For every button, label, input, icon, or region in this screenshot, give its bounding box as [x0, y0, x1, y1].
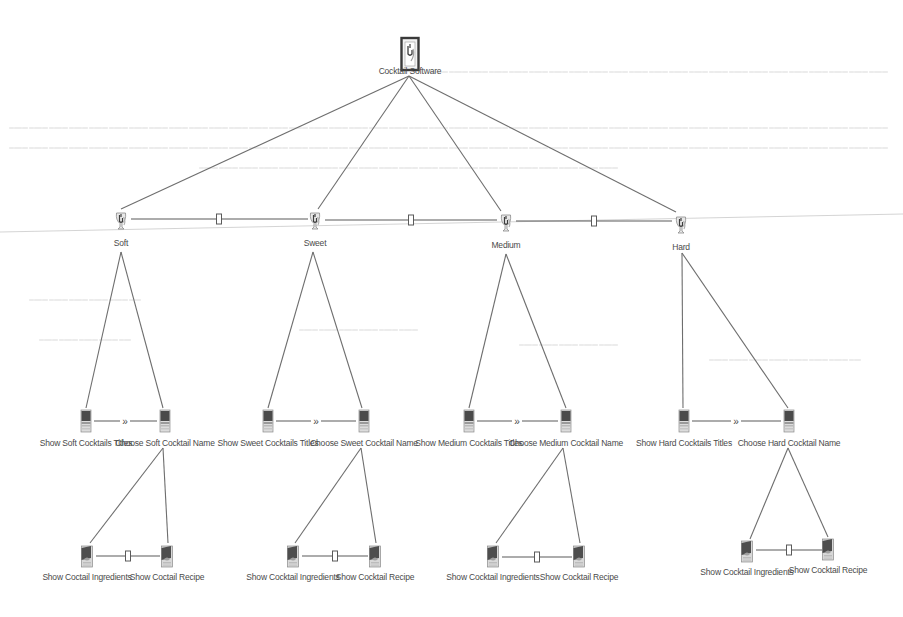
alternative-marker-icon	[592, 216, 597, 226]
recipe-card-icon	[370, 546, 381, 567]
tree-edge-hard-to-hard_name	[682, 253, 788, 408]
node-label: Show Cocktail Recipe	[540, 572, 619, 582]
screen-page-icon	[81, 410, 91, 432]
tree-edge-hard_name-to-hard_ingr	[750, 448, 788, 539]
recipe-card-icon	[742, 541, 753, 562]
tree-edge-root-to-medium	[409, 76, 501, 211]
node-label: Medium	[491, 240, 520, 250]
alternative-marker-icon	[409, 215, 414, 225]
recipe-card-icon	[82, 546, 93, 567]
screen-page-icon	[784, 410, 794, 432]
screen-page-icon	[263, 410, 273, 432]
tree-edge-sweet_name-to-sweet_recipe	[361, 448, 376, 543]
screen-page-icon	[561, 410, 571, 432]
node-label: Choose Soft Cocktail Name	[115, 438, 215, 448]
node-label: Choose Hard Cocktail Name	[738, 438, 841, 448]
tree-edge-soft_name-to-soft_recipe	[163, 448, 168, 543]
connector-sweet_ingr-sweet_recipe	[302, 551, 368, 561]
alternative-marker-icon	[217, 214, 222, 224]
alternative-marker-icon	[535, 552, 540, 562]
node-label: Show Cocktail Ingredients	[700, 567, 793, 577]
connector-hard_ingr-hard_recipe	[756, 545, 822, 555]
screen-page-icon	[160, 410, 170, 432]
node-sweet-ingr[interactable]: Show Cocktail Ingredients	[246, 546, 339, 582]
tree-edge-sweet_name-to-sweet_ingr	[295, 448, 361, 543]
screen-page-icon	[464, 410, 474, 432]
alternative-marker-icon	[787, 545, 792, 555]
tree-edge-hard-to-hard_titles	[682, 253, 683, 408]
node-medium-name[interactable]: Choose Medium Cocktail Name	[509, 410, 624, 448]
tree-edge-medium_name-to-medium_ingr	[496, 448, 563, 543]
tree-edge-soft_name-to-soft_ingr	[90, 448, 163, 543]
tree-edge-medium_name-to-medium_recipe	[563, 448, 580, 543]
node-hard[interactable]: Hard	[672, 217, 690, 252]
node-soft-ingr[interactable]: Show Coctail Ingredients	[42, 546, 131, 582]
recipe-card-icon	[288, 546, 299, 567]
sequence-chevron-icon: »	[313, 416, 319, 427]
node-label: Choose Sweet Cocktail Name	[310, 438, 418, 448]
tree-edge-medium-to-medium_name	[506, 254, 566, 408]
node-soft-name[interactable]: Choose Soft Cocktail Name	[115, 410, 215, 448]
screen-page-icon	[359, 410, 369, 432]
node-label: Show Cocktail Ingredients	[246, 572, 339, 582]
cocktail-glass-icon	[116, 213, 125, 229]
sequence-chevron-icon: »	[122, 416, 128, 427]
scan-background-noise	[0, 72, 903, 360]
sequence-chevron-icon: »	[733, 416, 739, 427]
connector-soft-sweet	[131, 214, 308, 224]
node-label: Sweet	[304, 238, 327, 248]
cocktail-glass-icon	[310, 213, 319, 229]
node-label: Hard	[672, 242, 690, 252]
node-soft-recipe[interactable]: Show Coctail Recipe	[130, 546, 205, 582]
node-label: Show Sweet Cocktails Titles	[218, 438, 319, 448]
node-sweet-titles[interactable]: Show Sweet Cocktails Titles	[218, 410, 319, 448]
sibling-connectors: »»»»	[94, 214, 822, 562]
node-label: Show Cocktail Ingredients	[446, 572, 539, 582]
node-hard-recipe[interactable]: Show Cocktail Recipe	[789, 539, 868, 575]
node-hard-titles[interactable]: Show Hard Cocktails Titles	[636, 410, 732, 448]
alternative-marker-icon	[333, 551, 338, 561]
node-label: Show Medium Cocktails Titles	[415, 438, 522, 448]
node-soft[interactable]: Soft	[114, 213, 129, 248]
sequence-chevron-icon: »	[514, 416, 520, 427]
node-label: Show Cocktail Recipe	[336, 572, 415, 582]
node-medium-titles[interactable]: Show Medium Cocktails Titles	[415, 410, 522, 448]
tree-edge-soft-to-soft_name	[121, 252, 163, 408]
tree-edge-root-to-soft	[121, 76, 409, 209]
recipe-card-icon	[488, 546, 499, 567]
connector-soft_ingr-soft_recipe	[96, 551, 160, 561]
screen-page-icon	[679, 410, 689, 432]
recipe-card-icon	[162, 546, 173, 567]
node-sweet[interactable]: Sweet	[304, 213, 327, 248]
cocktail-glass-icon	[676, 217, 685, 233]
node-label: Choose Medium Cocktail Name	[509, 438, 624, 448]
connector-soft_titles-soft_name: »	[94, 416, 157, 427]
tree-edge-medium-to-medium_titles	[469, 254, 506, 408]
connector-sweet_titles-sweet_name: »	[276, 416, 356, 427]
tree-edge-soft-to-soft_titles	[86, 252, 121, 408]
scan-fold-line	[0, 214, 903, 232]
node-label: Show Coctail Recipe	[130, 572, 205, 582]
node-sweet-recipe[interactable]: Show Cocktail Recipe	[336, 546, 415, 582]
node-medium-ingr[interactable]: Show Cocktail Ingredients	[446, 546, 539, 582]
node-medium-recipe[interactable]: Show Cocktail Recipe	[540, 546, 619, 582]
node-label: Show Hard Cocktails Titles	[636, 438, 732, 448]
tree-edge-root-to-hard	[409, 76, 676, 212]
recipe-card-icon	[823, 539, 834, 560]
connector-medium-hard	[516, 216, 672, 226]
node-label: Soft	[114, 238, 129, 248]
node-sweet-name[interactable]: Choose Sweet Cocktail Name	[310, 410, 418, 448]
node-label: Show Coctail Ingredients	[42, 572, 131, 582]
node-hard-name[interactable]: Choose Hard Cocktail Name	[738, 410, 841, 448]
connector-sweet-medium	[325, 215, 497, 225]
alternative-marker-icon	[126, 551, 131, 561]
feature-tree-diagram: »»»» Cocktail SoftwareSoftSweetMediumHar…	[0, 0, 903, 617]
tree-edges	[86, 76, 828, 543]
node-hard-ingr[interactable]: Show Cocktail Ingredients	[700, 541, 793, 577]
connector-medium_ingr-medium_recipe	[502, 552, 572, 562]
node-label: Show Cocktail Recipe	[789, 565, 868, 575]
node-root[interactable]: Cocktail Software	[379, 38, 442, 76]
tree-edge-root-to-sweet	[318, 76, 409, 209]
tree-nodes: Cocktail SoftwareSoftSweetMediumHardShow…	[40, 38, 868, 582]
connector-hard_titles-hard_name: »	[692, 416, 781, 427]
